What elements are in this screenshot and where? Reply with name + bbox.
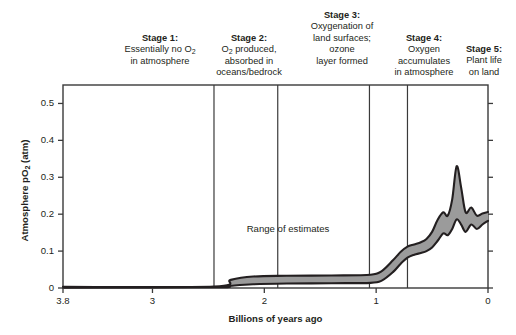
x-tick-label-2: 2 xyxy=(249,295,279,306)
x-tick-label-4: 0 xyxy=(473,295,503,306)
y-tick-label-2: 0.2 xyxy=(28,208,54,219)
y-tick-label-3: 0.3 xyxy=(28,171,54,182)
y-tick-label-5: 0.5 xyxy=(28,97,54,108)
plot-canvas xyxy=(0,0,516,335)
range-of-estimates-label: Range of estimates xyxy=(247,223,330,234)
oxygen-history-chart: Stage 1: Essentially no O2 in atmosphere… xyxy=(0,0,516,335)
y-tick-label-4: 0.4 xyxy=(28,134,54,145)
x-tick-label-0: 3.8 xyxy=(48,295,78,306)
x-tick-label-3: 1 xyxy=(361,295,391,306)
y-tick-label-0: 0 xyxy=(28,282,54,293)
x-axis-title: Billions of years ago xyxy=(63,313,488,324)
x-tick-label-1: 3 xyxy=(137,295,167,306)
plot-frame xyxy=(63,85,488,288)
y-tick-label-1: 0.1 xyxy=(28,245,54,256)
